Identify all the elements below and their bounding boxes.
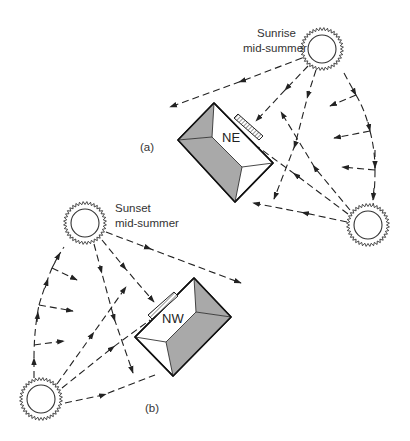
panel-label-a: (a) [140, 141, 154, 153]
sun-icon-sunset [64, 202, 107, 245]
ray-arrow [253, 203, 347, 222]
ray-arrow [102, 240, 154, 302]
ray-arrow [57, 287, 126, 384]
rays-from-bottom-left-sun [57, 287, 155, 403]
ray-arrow [258, 147, 348, 214]
ray-arrow [342, 167, 375, 170]
sunrise-label-line2: mid-summer [243, 42, 307, 54]
ray-arrow [106, 232, 241, 283]
solar-orientation-diagram: NE Sunrise mid-summer (a) [0, 0, 410, 441]
sunset-label-line1: Sunset [115, 202, 152, 214]
ray-arrow [281, 112, 350, 210]
sun-icon-bottom-left [20, 378, 63, 421]
sun-icon-right [347, 204, 390, 247]
ray-arrow [170, 58, 302, 107]
ray-arrow [65, 375, 155, 403]
sun-path-arc-a [330, 73, 375, 205]
ray-arrow [52, 268, 77, 280]
panel-b: NW Sunset mid-summer (b) [20, 202, 241, 421]
house-nw: NW [135, 278, 231, 376]
house-label-ne: NE [222, 130, 240, 145]
ray-arrow [256, 66, 308, 121]
panel-a: NE Sunrise mid-summer (a) [140, 27, 389, 246]
sunrise-label-line1: Sunrise [257, 27, 296, 39]
sunset-label-line2: mid-summer [115, 217, 179, 229]
ray-arrow [62, 320, 150, 388]
ray-arrow [330, 95, 356, 106]
sun-path-arc-b [34, 247, 77, 378]
panel-label-b: (b) [145, 402, 159, 414]
ray-arrow [34, 341, 64, 345]
ray-arrow [94, 244, 133, 373]
house-label-nw: NW [162, 311, 184, 326]
ray-arrow [334, 131, 370, 138]
ray-arrow [39, 305, 73, 311]
sun-icon-sunrise [301, 28, 344, 71]
